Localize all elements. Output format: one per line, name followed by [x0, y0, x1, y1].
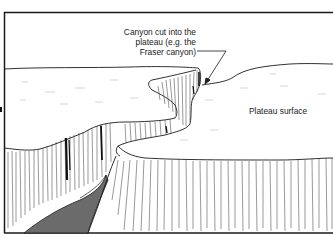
canyon-label-line-2: plateau (e.g. the [124, 37, 196, 47]
left-edge-mark [0, 107, 2, 112]
left-cliff-rim [4, 70, 196, 150]
plateau-surface-label: Plateau surface [249, 106, 307, 116]
left-plateau-edge [4, 67, 201, 84]
right-cliff-hatching [112, 158, 332, 231]
canyon-label-line-3: Fraser canyon) [124, 47, 196, 57]
canyon-label: Canyon cut into the plateau (e.g. the Fr… [124, 27, 196, 57]
left-cliff-shadows [66, 126, 102, 180]
canyon-leader-arrow [197, 51, 226, 84]
right-plateau-edge [202, 64, 333, 85]
canyon-inner-wall [116, 84, 200, 156]
right-cliff-rim [118, 146, 333, 160]
canyon-label-line-1: Canyon cut into the [124, 27, 196, 37]
diagram-canvas: Canyon cut into the plateau (e.g. the Fr… [0, 0, 333, 237]
canyon-wall-hatching [125, 70, 197, 143]
